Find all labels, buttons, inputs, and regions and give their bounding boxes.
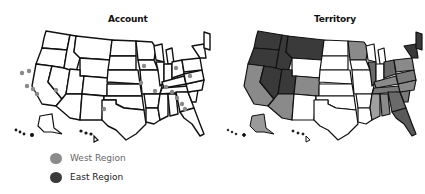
us-map-territory xyxy=(216,24,424,144)
us-map-account xyxy=(4,24,212,144)
page-title-cutoff xyxy=(0,0,425,4)
account-marker xyxy=(153,89,157,93)
state-ks xyxy=(319,84,354,96)
state-me xyxy=(416,32,422,50)
legend-label-west: West Region xyxy=(70,153,126,163)
territory-map-title: Territory xyxy=(314,14,356,24)
state-fl xyxy=(180,108,204,136)
state-nd xyxy=(110,40,136,56)
account-marker xyxy=(183,107,187,111)
state-ak xyxy=(250,114,274,134)
state-wi xyxy=(154,44,164,62)
state-mt xyxy=(286,36,324,60)
territory-map xyxy=(216,24,424,144)
legend-label-east: East Region xyxy=(70,172,123,182)
state-nd xyxy=(322,40,348,56)
state-pa xyxy=(394,58,414,72)
account-marker xyxy=(102,107,106,111)
account-marker xyxy=(174,66,178,70)
account-marker xyxy=(164,85,168,89)
account-map-title: Account xyxy=(108,14,148,24)
account-marker xyxy=(27,69,31,73)
state-ks xyxy=(107,84,142,96)
state-wa xyxy=(254,31,282,50)
east-region-swatch-icon xyxy=(50,172,62,183)
state-wy xyxy=(292,58,322,78)
state-ne xyxy=(319,70,352,84)
state-wi xyxy=(366,44,376,62)
account-marker xyxy=(35,92,39,96)
state-nm xyxy=(292,94,316,120)
legend-item-east: East Region xyxy=(50,169,126,185)
account-marker xyxy=(180,102,184,106)
state-mn xyxy=(348,41,368,60)
state-ia xyxy=(138,60,158,70)
state-sd xyxy=(320,56,348,70)
state-ne xyxy=(107,70,140,84)
state-mt xyxy=(74,36,112,60)
west-region-swatch-icon xyxy=(50,153,62,164)
account-marker xyxy=(170,90,174,94)
state-ms xyxy=(370,94,380,120)
account-marker xyxy=(188,74,192,78)
state-hi xyxy=(94,136,98,142)
state-mn xyxy=(136,41,156,60)
account-marker xyxy=(139,81,143,85)
account-marker xyxy=(25,84,29,88)
state-wa xyxy=(42,31,70,50)
state-me xyxy=(204,32,210,50)
state-nm xyxy=(80,94,104,120)
account-marker xyxy=(54,88,58,92)
state-ak xyxy=(38,114,62,134)
account-marker xyxy=(175,96,179,100)
legend: West Region East Region xyxy=(50,150,126,188)
account-marker xyxy=(31,87,35,91)
account-marker xyxy=(142,64,146,68)
state-ia xyxy=(350,60,370,70)
state-sd xyxy=(108,56,136,70)
state-ms xyxy=(158,94,168,120)
legend-item-west: West Region xyxy=(50,150,126,166)
state-ar xyxy=(356,94,372,108)
state-co xyxy=(294,76,320,96)
state-pa xyxy=(182,58,202,72)
state-wy xyxy=(80,58,110,78)
account-map xyxy=(4,24,212,144)
state-hi xyxy=(306,136,310,142)
account-marker xyxy=(20,71,24,75)
state-co xyxy=(82,76,108,96)
state-fl xyxy=(392,108,416,136)
